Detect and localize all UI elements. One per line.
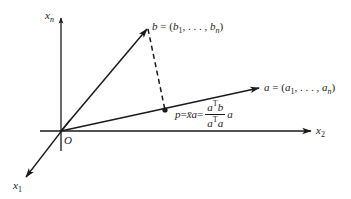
projection-point-p <box>162 107 167 112</box>
projection-fraction: aTb aTa <box>205 100 225 128</box>
projection-dashed-line <box>148 29 165 110</box>
projection-formula-label: p = x̄a = aTb aTa a <box>175 100 233 128</box>
x-n-axis-label: xn <box>45 10 54 24</box>
x-2-axis-label: x2 <box>316 125 325 139</box>
vector-b-label: b = (b1, . . . , bn) <box>152 21 223 35</box>
vector-a-label: a = (a1, . . . , an) <box>264 82 335 96</box>
origin-label: O <box>64 135 72 146</box>
x-1-axis-label: x1 <box>13 180 22 194</box>
